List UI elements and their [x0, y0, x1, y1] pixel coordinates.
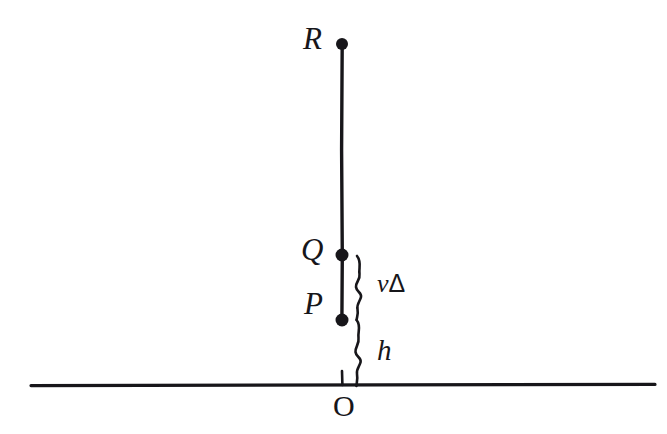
point-dot-Q: [336, 249, 349, 262]
brace-h: [355, 320, 360, 386]
measure-symbol-v: v: [377, 269, 389, 298]
measure-label-h: h: [377, 336, 392, 365]
brace-v-delta: [356, 256, 361, 320]
point-label-O: O: [333, 391, 355, 421]
measure-label-v-delta: vΔ: [377, 271, 405, 297]
point-dot-P: [336, 314, 349, 327]
point-label-R: R: [303, 23, 322, 54]
point-label-Q: Q: [301, 234, 323, 265]
diagram-svg: [0, 0, 667, 434]
point-label-P: P: [304, 288, 323, 319]
point-dot-R: [336, 38, 348, 50]
figure-canvas: R Q P O vΔ h: [0, 0, 667, 434]
measure-symbol-delta: Δ: [389, 269, 406, 297]
vertical-worldline: [342, 44, 343, 320]
